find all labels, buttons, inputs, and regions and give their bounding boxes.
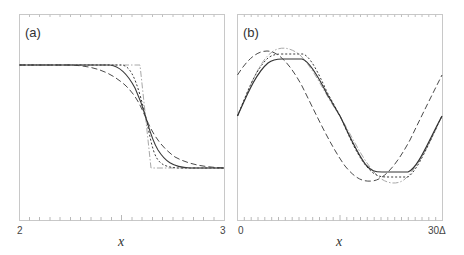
- panel-a-curve-long-dashed: [20, 65, 225, 168]
- panel-b-xlabel: x: [335, 234, 343, 249]
- panel-a-curve-solid: [20, 65, 225, 168]
- panel-b-frame: [238, 15, 443, 221]
- panel-a-xtick-right: 3: [220, 225, 226, 236]
- panel-b-xtick-left: 0: [238, 225, 244, 236]
- panel-a-curve-exact-step: [20, 65, 225, 168]
- panel-a-xtick-left: 2: [17, 225, 23, 236]
- panel-a: (a) 2 3 x: [17, 15, 226, 250]
- panel-a-curve-short-dashed: [20, 65, 225, 168]
- panel-a-label: (a): [25, 25, 41, 40]
- panel-b-curve-solid: [238, 59, 443, 172]
- figure: (a) 2 3 x: [0, 0, 464, 255]
- panel-b-bottom-ticks: [244, 215, 435, 221]
- panel-a-bottom-ticks: [30, 215, 215, 221]
- panel-b: (b) 0 30Δ x: [238, 15, 447, 250]
- panel-a-frame: [20, 15, 225, 221]
- panel-b-label: (b): [243, 25, 259, 40]
- panel-b-xtick-right: 30Δ: [428, 225, 446, 236]
- panel-a-xlabel: x: [117, 234, 125, 249]
